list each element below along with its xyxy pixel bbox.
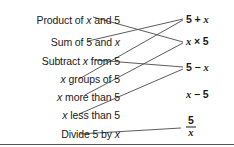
expression-item-r3[interactable]: 5 − x — [186, 62, 209, 74]
variable-x: x — [186, 36, 191, 47]
variable-x: x — [115, 36, 120, 48]
variable-x: x — [86, 14, 91, 26]
variable-x: x — [186, 89, 191, 100]
variable-x: x — [61, 73, 66, 85]
variable-x: x — [203, 14, 208, 25]
expression-item-r4[interactable]: x − 5 — [186, 89, 209, 101]
variable-x: x — [62, 109, 67, 121]
connector-line-l5-to-r2[interactable] — [85, 43, 183, 95]
fraction-numerator: 5 — [186, 115, 196, 127]
fraction-5-over-x: 5x — [186, 115, 196, 138]
expression-item-r2[interactable]: x × 5 — [186, 36, 209, 48]
expression-item-r1[interactable]: 5 + x — [186, 14, 209, 26]
phrase-item-l6[interactable]: x less than 5 — [62, 110, 120, 121]
fraction-denominator: x — [186, 128, 196, 139]
phrase-item-l7[interactable]: Divide 5 by x — [61, 129, 120, 140]
variable-x: x — [203, 62, 208, 73]
variable-x: x — [83, 55, 88, 67]
phrase-item-l4[interactable]: x groups of 5 — [61, 74, 120, 85]
variable-x: x — [115, 128, 120, 140]
bottom-divider-rule — [0, 144, 234, 145]
matching-diagram: Product of x and 5 Sum of 5 and x Subtra… — [0, 0, 234, 147]
phrase-item-l2[interactable]: Sum of 5 and x — [51, 37, 120, 48]
expression-item-r5[interactable]: 5x — [186, 115, 196, 138]
variable-x: x — [57, 91, 62, 103]
phrase-item-l5[interactable]: x more than 5 — [57, 92, 120, 103]
connector-line-l4-to-r1[interactable] — [79, 20, 183, 79]
phrase-item-l1[interactable]: Product of x and 5 — [37, 15, 120, 26]
phrase-item-l3[interactable]: Subtract x from 5 — [42, 56, 120, 67]
